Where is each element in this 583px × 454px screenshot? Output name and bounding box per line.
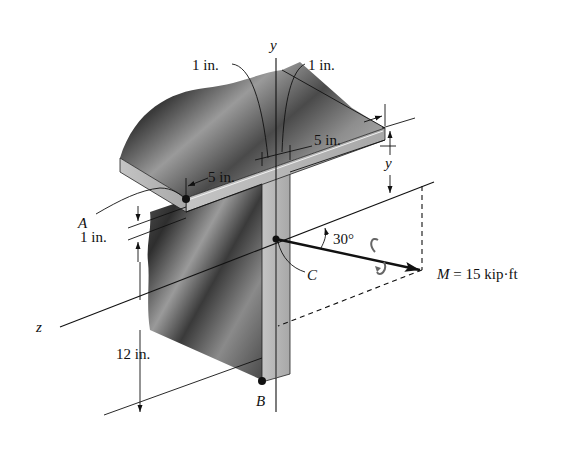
t-beam-diagram: y z 30° M = 15 kip·ft C A B 1 in. 12 in.… <box>0 0 583 454</box>
dim-flange-thickness-vertical: 1 in. <box>80 229 107 245</box>
point-c-label: C <box>307 267 318 283</box>
point-b <box>258 377 266 385</box>
point-b-label: B <box>256 393 265 409</box>
dim-web-height: 12 in. <box>116 346 150 362</box>
z-axis-label: z <box>35 319 42 335</box>
angle-arc <box>321 228 326 248</box>
dim-flange-width-right: 5 in. <box>314 132 341 148</box>
dim-flange-thickness: 1 in. <box>192 57 219 73</box>
moment-label: M = 15 kip·ft <box>436 266 518 282</box>
point-c <box>273 236 280 243</box>
dim-web-thickness: 1 in. <box>308 57 335 73</box>
y-axis-label: y <box>268 37 277 53</box>
dim-centroid-ybar: y <box>383 155 392 171</box>
dim-flange-width-left: 5 in. <box>208 169 235 185</box>
angle-label: 30° <box>333 231 354 247</box>
point-a <box>182 195 190 203</box>
